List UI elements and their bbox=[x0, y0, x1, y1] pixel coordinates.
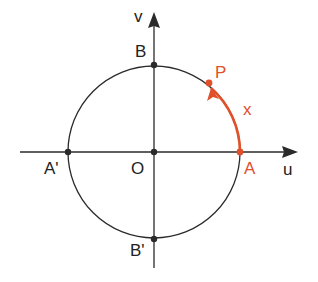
label-A-prime: A' bbox=[44, 160, 59, 177]
u-axis-arrow-icon bbox=[282, 146, 298, 158]
v-axis-label: v bbox=[134, 8, 143, 25]
label-B-prime: B' bbox=[130, 242, 145, 259]
point-B-prime bbox=[151, 236, 157, 242]
u-axis-label: u bbox=[283, 161, 292, 178]
label-P: P bbox=[215, 64, 226, 81]
label-A: A bbox=[244, 160, 255, 177]
unit-circle-diagram: v u B B' A' O A P x bbox=[0, 0, 318, 282]
point-B bbox=[151, 62, 157, 68]
point-P bbox=[206, 80, 213, 87]
point-A bbox=[237, 149, 244, 156]
point-A-prime bbox=[65, 149, 71, 155]
label-B: B bbox=[135, 43, 146, 60]
diagram-graphics bbox=[0, 0, 318, 282]
label-x: x bbox=[243, 101, 252, 118]
point-O bbox=[151, 149, 157, 155]
label-O: O bbox=[131, 160, 144, 177]
v-axis-arrow-icon bbox=[148, 12, 160, 28]
